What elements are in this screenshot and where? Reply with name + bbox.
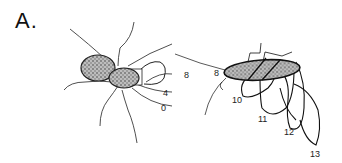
figure-drawing: 8 4 0 8 10 11 12 13	[0, 0, 342, 163]
left-cell	[64, 22, 172, 143]
label-10: 10	[232, 95, 242, 105]
label-11: 11	[258, 114, 267, 124]
label-0: 0	[161, 103, 166, 113]
label-4: 4	[163, 88, 168, 98]
label-12: 12	[284, 127, 294, 137]
label-13: 13	[310, 149, 320, 159]
right-cell	[175, 43, 320, 145]
label-8-right: 8	[214, 68, 219, 78]
label-8-left: 8	[184, 70, 189, 80]
